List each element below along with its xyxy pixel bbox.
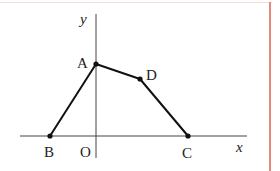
point-b-label: B <box>44 144 54 160</box>
polyline-BADC <box>50 64 188 136</box>
y-axis-label: y <box>78 11 87 27</box>
coordinate-diagram: y x O A B C D <box>0 0 280 171</box>
point-c <box>185 133 190 138</box>
point-d <box>137 76 142 81</box>
point-b <box>47 133 52 138</box>
point-a-label: A <box>77 55 88 71</box>
point-a <box>93 61 98 66</box>
point-d-label: D <box>146 67 157 83</box>
x-axis-label: x <box>235 139 243 155</box>
origin-label: O <box>80 144 91 160</box>
point-c-label: C <box>182 145 192 161</box>
